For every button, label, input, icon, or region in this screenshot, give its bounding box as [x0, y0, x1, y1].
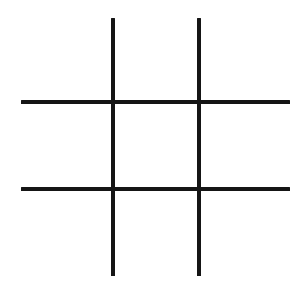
cell-middle-center[interactable]	[115, 104, 197, 187]
cell-middle-right[interactable]	[201, 104, 290, 187]
cell-middle-left[interactable]	[21, 104, 111, 187]
cell-bottom-right[interactable]	[201, 191, 290, 276]
cell-top-center[interactable]	[115, 18, 197, 100]
cell-bottom-left[interactable]	[21, 191, 111, 276]
tic-tac-toe-board	[0, 0, 305, 293]
cell-bottom-center[interactable]	[115, 191, 197, 276]
vertical-line-right	[197, 18, 201, 276]
cell-top-left[interactable]	[21, 18, 111, 100]
horizontal-line-bottom	[21, 187, 290, 191]
vertical-line-left	[111, 18, 115, 276]
horizontal-line-top	[21, 100, 290, 104]
cell-top-right[interactable]	[201, 18, 290, 100]
